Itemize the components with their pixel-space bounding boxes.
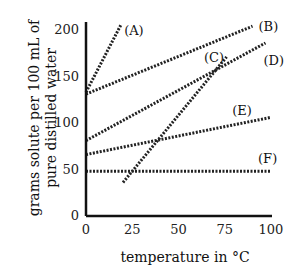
x-tick-label: 100 bbox=[259, 222, 284, 237]
series-label: (C) bbox=[204, 50, 224, 65]
series-line bbox=[86, 117, 271, 154]
series-label: (B) bbox=[259, 19, 279, 34]
x-tick-label: 75 bbox=[216, 222, 233, 237]
x-axis-label: temperature in °C bbox=[120, 249, 249, 265]
solubility-chart: 050100150200 0255075100 (A)(B)(C)(D)(E)(… bbox=[0, 0, 302, 274]
series-line bbox=[123, 57, 227, 183]
y-tick-label: 50 bbox=[62, 162, 79, 177]
y-tick-label: 200 bbox=[54, 22, 79, 37]
series-line bbox=[86, 26, 253, 94]
x-tick-label: 0 bbox=[82, 222, 90, 237]
y-axis-label-line2: pure distilled water bbox=[43, 48, 59, 188]
series-label: (E) bbox=[232, 103, 252, 118]
series-label: (D) bbox=[263, 53, 284, 68]
series-line bbox=[86, 43, 265, 141]
series-label: (F) bbox=[258, 151, 277, 166]
series-labels: (A)(B)(C)(D)(E)(F) bbox=[124, 19, 284, 166]
series-label: (A) bbox=[124, 23, 144, 38]
y-tick-label: 0 bbox=[71, 208, 79, 223]
x-tick-labels: 0255075100 bbox=[82, 222, 284, 237]
x-tick-label: 25 bbox=[124, 222, 141, 237]
y-axis-label-line1: grams solute per 100 mL of bbox=[26, 18, 42, 216]
x-tick-label: 50 bbox=[170, 222, 187, 237]
